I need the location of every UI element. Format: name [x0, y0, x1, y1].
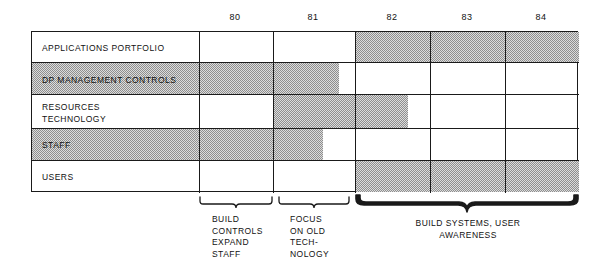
grid-vline-81-82 [355, 32, 356, 193]
grid-vline-82-83 [430, 32, 431, 193]
row-label-line2: TECHNOLOGY [42, 113, 106, 125]
row-label-line1: USERS [42, 172, 74, 182]
bar-applications-portfolio [355, 32, 579, 62]
grid-hline-3 [32, 128, 579, 129]
brace-build-controls [199, 196, 273, 210]
chart-grid: APPLICATIONS PORTFOLIO DP MANAGEMENT CON… [31, 31, 578, 192]
row-label-users: USERS [42, 171, 74, 183]
row-label-line1: DP MANAGEMENT CONTROLS [42, 75, 176, 85]
grid-hline-4 [32, 160, 579, 161]
year-header-81: 81 [293, 12, 333, 22]
grid-vline-label-col [199, 32, 200, 193]
row-label-dp-management-controls: DP MANAGEMENT CONTROLS [42, 74, 176, 86]
year-header-82: 82 [372, 12, 412, 22]
brace-label-build-systems-user-awareness: BUILD SYSTEMS, USER AWARENESS [378, 218, 558, 241]
row-label-staff: STAFF [42, 139, 71, 151]
grid-vline-80-81 [273, 32, 274, 193]
year-header-80: 80 [215, 12, 255, 22]
timeline-matrix-chart: 80 81 82 83 84 APPLICATIONS PORTFOLIO DP… [0, 0, 603, 280]
year-header-83: 83 [447, 12, 487, 22]
grid-hline-2 [32, 94, 579, 95]
brace-focus-old-tech [278, 196, 350, 210]
row-label-resources-technology: RESOURCES TECHNOLOGY [42, 101, 106, 125]
grid-hline-1 [32, 62, 579, 63]
brace-label-focus-old-tech: FOCUS ON OLD TECH- NOLOGY [290, 214, 362, 260]
bar-staff [32, 129, 323, 160]
row-label-line1: APPLICATIONS PORTFOLIO [42, 43, 164, 53]
row-label-applications-portfolio: APPLICATIONS PORTFOLIO [42, 42, 164, 54]
bar-resources-technology [273, 95, 408, 128]
year-header-84: 84 [521, 12, 561, 22]
brace-build-systems-user-awareness [354, 194, 580, 214]
brace-label-build-controls: BUILD CONTROLS EXPAND STAFF [212, 214, 284, 260]
grid-vline-83-84 [505, 32, 506, 193]
bar-users [355, 161, 579, 192]
row-label-line1: RESOURCES [42, 101, 106, 113]
row-label-line1: STAFF [42, 140, 71, 150]
